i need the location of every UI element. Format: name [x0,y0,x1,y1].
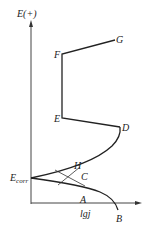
point-f-label: F [53,49,61,60]
x-axis-label: lgj [80,208,91,219]
point-h-label: H [73,160,82,171]
point-c-label: C [81,171,88,182]
point-a-label: A [79,194,87,205]
passive-transpassive-curve [62,40,120,127]
point-d-label: D [121,122,130,133]
polarization-diagram: E(+) lgj Ecorr F G E D H C A B [0,0,150,225]
anodic-curve [31,40,120,178]
ecorr-label: Ecorr [9,172,28,185]
cathodic-curve [31,178,118,210]
point-b-label: B [116,213,122,224]
y-axis-arrow-icon [29,20,33,27]
point-e-label: E [53,113,60,124]
point-g-label: G [116,34,123,45]
x-axis-arrow-icon [135,201,142,205]
y-axis-label: E(+) [16,8,37,20]
